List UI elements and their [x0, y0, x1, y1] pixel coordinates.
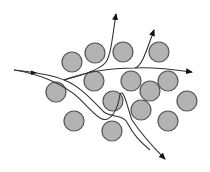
obstacle-circle — [158, 111, 178, 131]
obstacle-circle — [177, 91, 197, 111]
obstacle-circle — [84, 71, 104, 91]
obstacle-circle — [85, 43, 105, 63]
obstacle-circle — [102, 121, 122, 141]
obstacle-circle — [113, 42, 133, 62]
obstacle-circle — [131, 100, 151, 120]
obstacle-circle — [46, 82, 66, 102]
obstacles — [46, 42, 197, 141]
flow-diagram — [0, 0, 210, 172]
obstacle-circle — [149, 42, 169, 62]
obstacle-circle — [158, 71, 178, 91]
obstacle-circle — [64, 111, 84, 131]
obstacle-circle — [62, 52, 82, 72]
branch-path-right — [135, 68, 192, 72]
obstacle-circle — [121, 71, 141, 91]
obstacle-circle — [140, 81, 160, 101]
